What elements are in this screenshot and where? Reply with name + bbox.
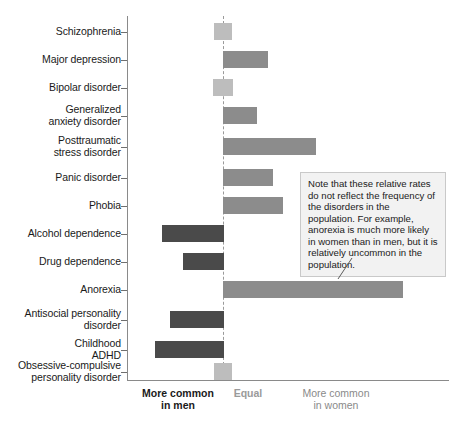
axis-label-equal: Equal bbox=[224, 387, 272, 399]
category-label-ptsd: Posttraumatic stress disorder bbox=[54, 135, 121, 158]
gender-differences-bar-chart: Schizophrenia Major depression Bipolar d… bbox=[0, 0, 458, 432]
y-axis-tick bbox=[121, 116, 127, 117]
y-axis-tick bbox=[121, 88, 127, 89]
bar-antisocial bbox=[170, 311, 224, 328]
bar-bipolar-disorder bbox=[213, 79, 233, 96]
bar-ocpd bbox=[214, 363, 232, 380]
bar-panic-disorder bbox=[223, 169, 273, 186]
bar-generalized-anxiety bbox=[223, 107, 257, 124]
category-label-phobia: Phobia bbox=[89, 200, 121, 212]
y-axis-tick bbox=[121, 350, 127, 351]
bar-ptsd bbox=[223, 138, 316, 155]
bar-schizophrenia bbox=[214, 23, 232, 40]
category-label-antisocial: Antisocial personality disorder bbox=[25, 308, 121, 331]
y-axis-spine bbox=[127, 16, 128, 380]
y-axis-tick bbox=[121, 32, 127, 33]
category-label-ocpd: Obsessive-compulsive personality disorde… bbox=[18, 360, 121, 383]
bar-major-depression bbox=[223, 51, 268, 68]
category-label-alcohol-dependence: Alcohol dependence bbox=[28, 228, 121, 240]
bar-drug-dependence bbox=[183, 253, 224, 270]
category-label-bipolar-disorder: Bipolar disorder bbox=[49, 82, 121, 94]
category-label-drug-dependence: Drug dependence bbox=[39, 256, 121, 268]
bar-childhood-adhd bbox=[155, 341, 224, 358]
axis-label-more-common-in-men: More common in men bbox=[132, 387, 224, 411]
category-label-generalized-anxiety: Generalized anxiety disorder bbox=[48, 104, 121, 127]
category-label-major-depression: Major depression bbox=[42, 54, 121, 66]
category-label-schizophrenia: Schizophrenia bbox=[56, 26, 121, 38]
x-axis-spine bbox=[127, 380, 449, 381]
y-axis-tick bbox=[121, 147, 127, 148]
bar-alcohol-dependence bbox=[162, 225, 224, 242]
annotation-callout: Note that these relative rates do not re… bbox=[300, 172, 446, 277]
y-axis-tick bbox=[121, 290, 127, 291]
category-label-panic-disorder: Panic disorder bbox=[55, 172, 121, 184]
y-axis-tick bbox=[121, 178, 127, 179]
y-axis-tick bbox=[121, 262, 127, 263]
axis-label-more-common-in-women: More common in women bbox=[276, 387, 396, 411]
y-axis-tick bbox=[121, 320, 127, 321]
y-axis-tick bbox=[121, 206, 127, 207]
y-axis-tick bbox=[121, 234, 127, 235]
y-axis-tick bbox=[121, 372, 127, 373]
category-label-childhood-adhd: Childhood ADHD bbox=[75, 338, 121, 361]
bar-phobia bbox=[223, 197, 283, 214]
category-label-anorexia: Anorexia bbox=[80, 284, 121, 296]
y-axis-tick bbox=[121, 60, 127, 61]
bar-anorexia bbox=[223, 281, 403, 298]
